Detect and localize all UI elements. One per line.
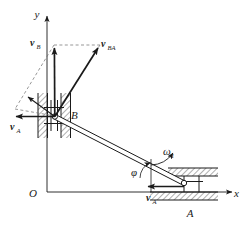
x-axis-label: x: [233, 187, 239, 199]
vector-v-a-at-b-subscript: A: [16, 127, 21, 134]
omega-subscript-label: 1: [171, 152, 174, 159]
vector-v-b-name: v: [30, 37, 35, 48]
point-a-label: A: [186, 207, 194, 219]
dash-vb-to-vatip: [15, 45, 54, 109]
origin-label: O: [29, 187, 37, 199]
guide-a-hatch-top: [168, 168, 218, 176]
vector-v-a-name: v: [146, 192, 151, 203]
vector-v-a-at-b-label: v A: [10, 121, 21, 134]
figure-canvas: y x O B A φ ω 1 v B v BA v A: [0, 0, 248, 227]
vector-v-ba-subscript: BA: [108, 44, 116, 51]
point-b-label: B: [71, 109, 78, 121]
y-axis-label: y: [34, 8, 40, 20]
guide-hatch-left: [38, 93, 48, 138]
kinematics-figure: y x O B A φ ω 1 v B v BA v A: [0, 0, 248, 227]
coordinate-axes: [47, 16, 232, 192]
vector-v-b-label: v B: [30, 37, 41, 50]
vector-v-a-subscript: A: [152, 198, 157, 205]
omega-label: ω: [163, 145, 171, 157]
vector-v-b-subscript: B: [37, 43, 41, 50]
joint-a-pin: [181, 180, 186, 185]
omega-label-group: ω 1: [163, 145, 174, 159]
angle-phi-label: φ: [131, 166, 137, 178]
guide-a-hatch-bottom: [150, 192, 218, 200]
vector-v-ba-label: v BA: [101, 38, 115, 51]
vector-v-ba-shaft: [55, 48, 98, 117]
vector-v-a-at-b-name: v: [10, 121, 15, 132]
vector-v-ba-name: v: [101, 38, 106, 49]
